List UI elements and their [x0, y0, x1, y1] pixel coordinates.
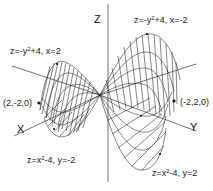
y-axis-label: Y — [190, 122, 197, 133]
x-axis-label: X — [17, 124, 24, 135]
curve-label-bottom-right: z=x2-4, y=2 — [152, 169, 197, 178]
left-upper-lobe — [40, 61, 100, 132]
z-axis-label: Z — [94, 14, 101, 25]
curve-label-top-right: z=-y2+4, x=-2 — [134, 16, 188, 25]
label-text: z=x — [27, 155, 41, 165]
right-lower-lobe — [100, 92, 172, 170]
left-lower-lobe — [42, 95, 100, 137]
curve-label-top-left: z=-y2+4, x=2 — [10, 47, 61, 56]
saddle-surface-diagram: Z X Y z=-y2+4, x=2 z=-y2+4, x=-2 z=x2-4,… — [0, 0, 213, 191]
label-text: z=-y — [10, 46, 27, 56]
label-text: -4, y=-2 — [45, 155, 76, 165]
curve-label-bottom-left: z=x2-4, y=-2 — [27, 156, 75, 165]
right-upper-lobe — [100, 34, 180, 118]
point-label-right: (-2,2,0) — [180, 98, 209, 107]
point-right-marker — [172, 99, 175, 102]
label-text: z=x — [152, 168, 166, 178]
label-text: +4, x=-2 — [155, 15, 188, 25]
label-text: +4, x=2 — [31, 46, 61, 56]
point-left-marker — [37, 101, 40, 104]
label-text: z=-y — [134, 15, 151, 25]
point-label-left: (2,-2,0) — [3, 99, 32, 108]
label-text: -4, y=2 — [170, 168, 198, 178]
